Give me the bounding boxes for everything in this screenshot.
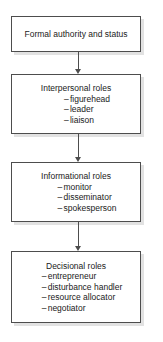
list-item-label: resource allocator [48,292,116,302]
list-item: –disturbance handler [42,282,123,293]
list-item: –entrepreneur [42,271,123,282]
list-item-label: monitor [64,182,92,192]
node-item-list: –entrepreneur –disturbance handler –reso… [30,271,123,313]
list-item-label: entrepreneur [48,271,97,281]
list-item: –leader [64,104,110,115]
node-title: Decisional roles [46,261,106,272]
node-title: Interpersonal roles [41,83,111,94]
list-item: –monitor [58,182,117,193]
list-item-label: liaison [70,115,94,125]
list-item: –negotiator [42,303,123,314]
list-item: –resource allocator [42,292,123,303]
flowchart-node-formal-authority-and-status: Formal authority and status [11,16,141,52]
flowchart-node-decisional-roles: Decisional roles –entrepreneur –disturba… [11,251,141,323]
node-title: Formal authority and status [25,29,128,40]
flow-arrow-3 [74,222,83,251]
list-item: –spokesperson [58,203,117,214]
flow-arrow-2 [74,134,83,162]
node-item-list: –monitor –disseminator –spokesperson [36,182,117,214]
list-item-label: disseminator [64,192,112,202]
flowchart-node-interpersonal-roles: Interpersonal roles –figurehead –leader … [11,74,141,134]
node-item-list: –figurehead –leader –liaison [42,94,110,126]
flowchart-diagram: Formal authority and status Interpersona… [0,0,163,342]
arrow-stem [78,222,79,246]
list-item-label: figurehead [70,94,110,104]
flowchart-node-informational-roles: Informational roles –monitor –disseminat… [11,162,141,222]
list-item: –liaison [64,115,110,126]
list-item-label: disturbance handler [48,282,123,292]
list-item-label: spokesperson [64,203,117,213]
flow-arrow-1 [74,52,83,74]
node-title: Informational roles [41,171,111,182]
list-item: –figurehead [64,94,110,105]
list-item: –disseminator [58,192,117,203]
list-item-label: negotiator [48,303,86,313]
arrow-stem [78,52,79,69]
list-item-label: leader [70,104,94,114]
arrow-stem [78,134,79,157]
